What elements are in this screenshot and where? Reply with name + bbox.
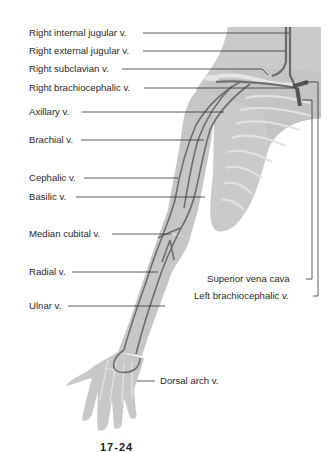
anatomy-figure: Right internal jugular v. Right external… — [0, 0, 334, 452]
label-superior-vena-cava: Superior vena cava — [207, 274, 290, 284]
label-ulnar: Ulnar v. — [29, 301, 61, 311]
label-left-brachiocephalic: Left brachiocephalic v. — [194, 291, 289, 301]
label-dorsal-arch: Dorsal arch v. — [160, 376, 218, 386]
label-right-subclavian: Right subclavian v. — [29, 64, 109, 74]
label-right-brachiocephalic: Right brachiocephalic v. — [29, 83, 130, 93]
label-axillary: Axillary v. — [29, 107, 69, 117]
label-median-cubital: Median cubital v. — [29, 229, 100, 239]
figure-caption: 17-24 — [100, 441, 133, 452]
label-radial: Radial v. — [29, 267, 66, 277]
label-right-external-jugular: Right external jugular v. — [29, 46, 129, 56]
label-brachial: Brachial v. — [29, 135, 73, 145]
label-basilic: Basilic v. — [29, 192, 66, 202]
label-cephalic: Cephalic v. — [29, 173, 76, 183]
label-right-internal-jugular: Right internal jugular v. — [29, 28, 126, 38]
torso-shape — [196, 27, 321, 232]
